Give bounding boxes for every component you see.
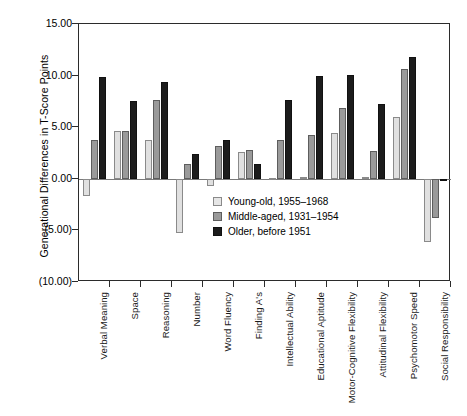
x-tick-mark	[295, 281, 296, 287]
bar	[401, 69, 408, 178]
bar	[130, 101, 137, 178]
x-axis-category-label: Word Fluency	[222, 292, 233, 352]
x-axis-category-label: Psychomotor Speed	[408, 292, 419, 379]
x-tick-mark	[171, 281, 172, 287]
x-tick-mark	[233, 281, 234, 287]
bar	[331, 133, 338, 178]
bar	[424, 179, 431, 242]
x-axis-category-label: Motor-Cognitive Flexibility	[346, 292, 357, 403]
bar	[254, 164, 261, 178]
bar	[347, 75, 354, 179]
black-swatch	[213, 227, 222, 236]
bar	[339, 108, 346, 179]
bar	[362, 177, 369, 179]
y-tick-label: 15.00	[12, 17, 72, 29]
y-tick-label: 0.00	[12, 172, 72, 184]
y-tick-mark	[72, 281, 78, 282]
x-tick-mark	[326, 281, 327, 287]
x-tick-mark	[140, 281, 141, 287]
bar	[122, 131, 129, 178]
bar	[114, 131, 121, 178]
bar	[440, 179, 447, 181]
x-axis-category-label: Social Responsibility	[439, 292, 450, 381]
plot-area	[78, 23, 450, 281]
x-axis-category-label: Educational Aptitude	[315, 292, 326, 380]
legend-item: Middle-aged, 1931–1954	[213, 211, 339, 222]
x-axis-category-label: Verbal Meaning	[98, 292, 109, 359]
bar	[308, 135, 315, 178]
x-axis-category-label: Number	[191, 292, 202, 326]
legend-item: Young-old, 1955–1968	[213, 196, 339, 207]
x-tick-mark	[202, 281, 203, 287]
y-axis-title: Generational Differences in T-Score Poin…	[38, 26, 50, 286]
x-tick-mark	[419, 281, 420, 287]
x-tick-mark	[264, 281, 265, 287]
x-tick-mark	[109, 281, 110, 287]
bar	[246, 150, 253, 179]
bar	[215, 146, 222, 179]
x-axis-category-label: Attitudinal Flexibility	[377, 292, 388, 377]
medium-gray-swatch	[213, 212, 222, 221]
legend: Young-old, 1955–1968Middle-aged, 1931–19…	[213, 196, 339, 237]
bar	[370, 151, 377, 179]
bar	[192, 154, 199, 179]
y-tick-label: 5.00	[12, 120, 72, 132]
bar	[409, 57, 416, 179]
legend-label: Young-old, 1955–1968	[228, 196, 328, 207]
legend-label: Middle-aged, 1931–1954	[228, 211, 339, 222]
bar	[277, 140, 284, 179]
bar	[161, 82, 168, 179]
bar	[378, 104, 385, 178]
zero-baseline	[79, 179, 451, 180]
bar	[91, 140, 98, 179]
x-axis-category-label: Reasoning	[160, 292, 171, 338]
bar	[207, 179, 214, 186]
bar	[316, 76, 323, 179]
x-axis-category-label: Finding A's	[253, 292, 264, 339]
bar	[285, 100, 292, 178]
x-tick-mark	[357, 281, 358, 287]
legend-item: Older, before 1951	[213, 226, 339, 237]
bar	[99, 77, 106, 179]
light-gray-swatch	[213, 197, 222, 206]
bar	[393, 117, 400, 179]
bar	[153, 100, 160, 178]
y-tick-label: 10.00	[12, 69, 72, 81]
x-axis-category-label: Intellectual Ability	[284, 292, 295, 367]
bar	[145, 140, 152, 179]
bar	[269, 178, 276, 180]
bar	[176, 179, 183, 234]
y-tick-label: (5.00)	[12, 223, 72, 235]
bar	[184, 164, 191, 178]
bar	[83, 179, 90, 197]
x-tick-mark	[450, 281, 451, 287]
bar-chart: Generational Differences in T-Score Poin…	[0, 0, 467, 416]
x-axis-category-label: Space	[129, 292, 140, 319]
bar	[432, 179, 439, 218]
legend-label: Older, before 1951	[228, 226, 311, 237]
bar	[300, 177, 307, 179]
bar	[238, 152, 245, 179]
bar	[223, 140, 230, 179]
y-tick-label: (10.00)	[12, 275, 72, 287]
x-tick-mark	[388, 281, 389, 287]
